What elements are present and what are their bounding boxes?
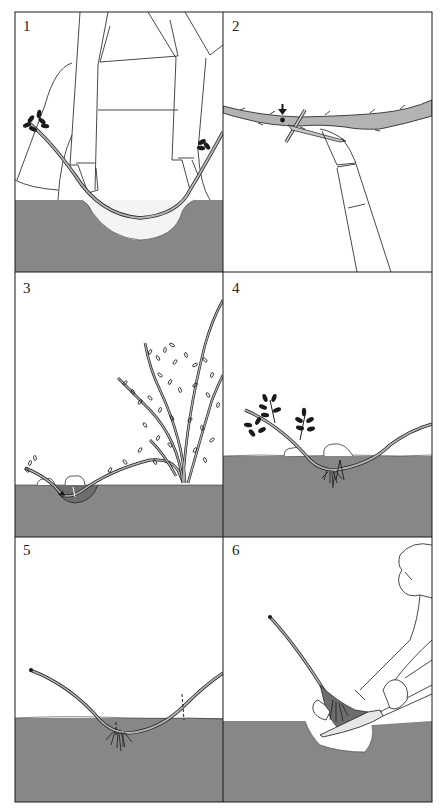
panel-6: 6 [223, 537, 432, 802]
soil [15, 485, 223, 537]
panel-4: 4 [223, 272, 432, 537]
panel-2: 2 [223, 12, 432, 272]
panel-number: 6 [232, 542, 240, 558]
panel-number: 3 [23, 280, 31, 296]
panel-number: 2 [232, 18, 240, 34]
panel-number: 4 [232, 280, 240, 296]
panel-5: 5 [15, 537, 223, 802]
panel-1: 1 [15, 12, 223, 272]
panel-3: 3 [15, 272, 223, 537]
panel-number: 1 [23, 18, 31, 34]
layering-diagram: 1 2 [0, 0, 444, 812]
panel-number: 5 [23, 542, 31, 558]
